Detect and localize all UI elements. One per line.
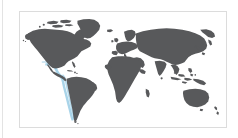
adjacent-panel-edge-divider xyxy=(2,0,3,138)
map-thumbnail-canvas xyxy=(0,0,238,138)
world-map-panel[interactable] xyxy=(19,11,227,128)
world-map-graphic[interactable] xyxy=(20,12,226,127)
